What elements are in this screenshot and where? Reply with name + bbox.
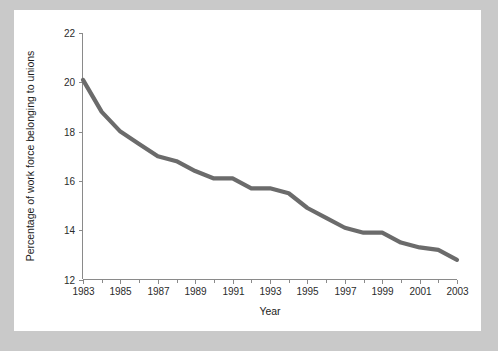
- y-tick-label-14: 14: [64, 225, 76, 236]
- y-tick-label-20: 20: [64, 77, 76, 88]
- x-tick-label-2003: 2003: [446, 286, 469, 297]
- x-axis-tick-labels: 1983198519871989199119931995199719992001…: [72, 286, 469, 297]
- y-tick-label-18: 18: [64, 127, 76, 138]
- y-axis-tick-labels: 121416182022: [64, 28, 76, 286]
- x-tick-label-1989: 1989: [184, 286, 207, 297]
- x-tick-label-1995: 1995: [296, 286, 319, 297]
- x-axis-tick-marks: [84, 280, 458, 284]
- x-tick-label-1993: 1993: [259, 286, 282, 297]
- x-tick-label-1997: 1997: [334, 286, 357, 297]
- union-membership-line: [83, 80, 457, 260]
- x-tick-label-1987: 1987: [147, 286, 170, 297]
- x-tick-label-1985: 1985: [109, 286, 132, 297]
- y-axis-title: Percentage of work force belonging to un…: [24, 51, 36, 262]
- x-tick-label-1991: 1991: [222, 286, 245, 297]
- y-tick-label-16: 16: [64, 176, 76, 187]
- x-tick-label-2001: 2001: [409, 286, 432, 297]
- line-chart: 121416182022 198319851987198919911993199…: [14, 10, 481, 331]
- x-tick-label-1999: 1999: [371, 286, 394, 297]
- y-tick-label-22: 22: [64, 28, 76, 39]
- x-axis-title: Year: [259, 305, 281, 317]
- x-tick-label-1983: 1983: [72, 286, 95, 297]
- y-tick-label-12: 12: [64, 275, 76, 286]
- chart-card: 121416182022 198319851987198919911993199…: [14, 10, 481, 331]
- figure-root: 121416182022 198319851987198919911993199…: [0, 0, 498, 351]
